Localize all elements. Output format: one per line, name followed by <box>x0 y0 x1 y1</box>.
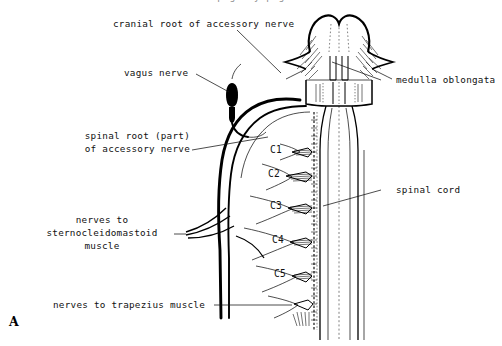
leader-vagus-nerve <box>196 74 229 92</box>
panel-letter-a: A <box>9 314 19 329</box>
label-spinal-root-line2: of accessory nerve <box>30 143 190 156</box>
leader-medulla <box>332 62 381 80</box>
label-nerves-to-trapezius-muscle: nerves to trapezius muscle <box>53 299 205 312</box>
anatomy-figure: p g f y p g <box>0 0 502 346</box>
cervical-level-c2: C2 <box>268 168 280 179</box>
cervical-level-c5: C5 <box>274 268 286 279</box>
cervical-level-c4: C4 <box>272 234 284 245</box>
anatomy-line-art <box>0 0 502 346</box>
label-spinal-cord: spinal cord <box>396 184 460 197</box>
label-vagus-nerve: vagus nerve <box>124 67 188 80</box>
medulla-oblongata-drawing <box>285 15 393 106</box>
cervical-level-c1: C1 <box>270 144 282 155</box>
label-medulla-oblongata: medulla oblongata <box>396 74 495 87</box>
label-scm-line2: sternocleidomastoid <box>30 227 174 240</box>
label-scm-line1: nerves to <box>30 214 174 227</box>
label-scm-line3: muscle <box>30 240 174 253</box>
leader-spinal-root <box>192 137 268 150</box>
leader-spinal-cord <box>323 190 381 206</box>
vagus-nerve-drawing <box>226 64 266 137</box>
leader-cranial-root <box>237 30 281 73</box>
label-cranial-root-of-accessory-nerve: cranial root of accessory nerve <box>113 18 294 31</box>
label-spinal-root-line1: spinal root (part) <box>30 130 190 143</box>
nerve-branches <box>186 208 264 258</box>
cervical-level-c3: C3 <box>270 200 282 211</box>
